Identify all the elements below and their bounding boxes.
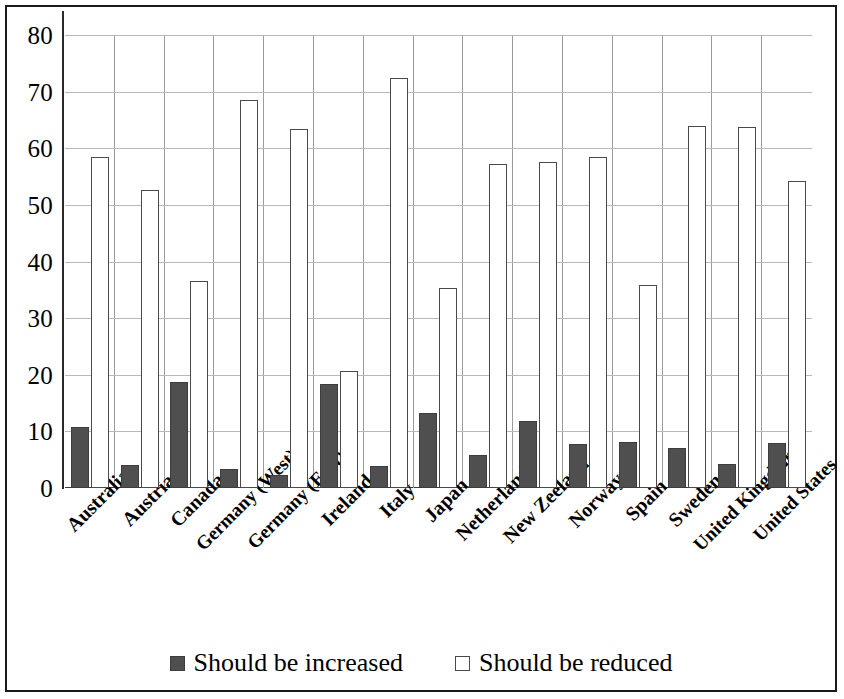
y-tick-label: 60 <box>27 136 53 161</box>
bar-should-be-reduced <box>738 127 756 488</box>
x-tick-slot: Sweden <box>663 488 713 638</box>
y-axis-tick-labels: 01020304050607080 <box>7 7 59 627</box>
bar-should-be-increased <box>320 384 338 488</box>
bar-should-be-increased <box>519 421 537 488</box>
bar-should-be-increased <box>569 444 587 488</box>
bar-should-be-reduced <box>589 157 607 488</box>
y-tick-label: 50 <box>27 192 53 217</box>
bar-should-be-increased <box>768 443 786 488</box>
bar-should-be-reduced <box>141 190 159 488</box>
x-tick-slot: Germany (East) <box>264 488 314 638</box>
chart-figure: 01020304050607080 AustraliaAustriaCanada… <box>5 5 837 692</box>
legend-item[interactable]: Should be increased <box>170 650 403 676</box>
bar-should-be-reduced <box>788 181 806 488</box>
x-tick-slot: Canada <box>165 488 215 638</box>
bar-should-be-reduced <box>390 78 408 488</box>
y-axis-line <box>62 11 64 489</box>
bar-should-be-reduced <box>639 285 657 488</box>
y-tick-label: 0 <box>40 476 53 501</box>
bar-should-be-increased <box>270 475 288 488</box>
x-tick-slot: New Zeeland <box>513 488 563 638</box>
bar-should-be-reduced <box>91 157 109 488</box>
empty-square-icon <box>455 656 470 671</box>
x-axis-tick-labels: AustraliaAustriaCanadaGermany (West)Germ… <box>65 488 812 638</box>
bar-should-be-increased <box>170 382 188 488</box>
gridline <box>65 92 812 93</box>
bar-should-be-reduced <box>539 162 557 488</box>
y-tick-label: 80 <box>27 23 53 48</box>
x-tick-slot: Spain <box>613 488 663 638</box>
x-tick-slot: Australia <box>65 488 115 638</box>
legend-label: Should be increased <box>194 650 403 676</box>
x-tick-slot: Germany (West) <box>214 488 264 638</box>
bar-should-be-increased <box>718 464 736 488</box>
bar-should-be-reduced <box>439 288 457 488</box>
y-tick-label: 70 <box>27 79 53 104</box>
y-tick-label: 40 <box>27 249 53 274</box>
x-tick-slot: United Kingdom <box>712 488 762 638</box>
x-tick-slot: United States <box>762 488 812 638</box>
bar-should-be-reduced <box>240 100 258 488</box>
bar-should-be-increased <box>668 448 686 488</box>
bar-should-be-reduced <box>489 164 507 488</box>
x-tick-slot: Italy <box>364 488 414 638</box>
bar-should-be-increased <box>469 455 487 488</box>
y-tick-label: 10 <box>27 419 53 444</box>
bar-should-be-reduced <box>340 371 358 488</box>
legend-item[interactable]: Should be reduced <box>455 650 673 676</box>
bar-should-be-increased <box>419 413 437 488</box>
plot-canvas <box>65 35 812 488</box>
bar-should-be-increased <box>220 469 238 488</box>
bar-should-be-reduced <box>688 126 706 488</box>
bar-should-be-increased <box>619 442 637 488</box>
chart-legend: Should be increasedShould be reduced <box>7 650 835 676</box>
bar-should-be-reduced <box>190 281 208 488</box>
bar-should-be-increased <box>71 427 89 488</box>
x-tick-slot: Netherlands <box>463 488 513 638</box>
bar-should-be-increased <box>121 465 139 488</box>
bar-should-be-increased <box>370 466 388 488</box>
legend-label: Should be reduced <box>479 650 673 676</box>
gridline <box>65 35 812 36</box>
x-tick-slot: Norway <box>563 488 613 638</box>
y-tick-label: 30 <box>27 306 53 331</box>
x-tick-slot: Japan <box>414 488 464 638</box>
x-tick-slot: Ireland <box>314 488 364 638</box>
bar-should-be-reduced <box>290 129 308 488</box>
filled-square-icon <box>170 656 185 671</box>
x-tick-slot: Austria <box>115 488 165 638</box>
y-tick-label: 20 <box>27 362 53 387</box>
